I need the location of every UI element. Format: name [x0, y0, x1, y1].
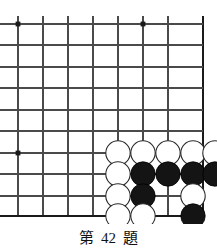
- black-stone-15[interactable]: [181, 204, 205, 224]
- problem-caption: 第 42 題: [0, 224, 217, 252]
- go-board-canvas[interactable]: [0, 0, 217, 224]
- white-stone-14[interactable]: [131, 204, 155, 224]
- white-stone-5[interactable]: [106, 162, 130, 186]
- star-point-0: [16, 22, 21, 27]
- black-stone-6[interactable]: [131, 162, 155, 186]
- star-point-1: [141, 22, 146, 27]
- white-stone-13[interactable]: [106, 204, 130, 224]
- caption-suffix: 題: [123, 231, 138, 246]
- go-board[interactable]: [0, 0, 217, 224]
- caption-number: 42: [101, 231, 116, 246]
- black-stone-8[interactable]: [181, 162, 205, 186]
- star-point-2: [16, 151, 21, 156]
- black-stone-7[interactable]: [156, 162, 180, 186]
- go-problem-diagram: 第 42 題: [0, 0, 217, 252]
- caption-prefix: 第: [79, 231, 94, 246]
